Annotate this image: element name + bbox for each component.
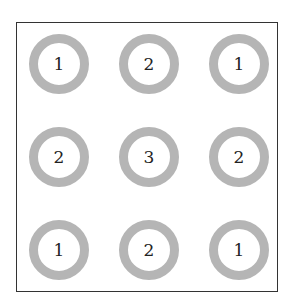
ring-r2c3: 2 <box>209 127 269 187</box>
ring-label: 1 <box>234 54 245 74</box>
ring-label: 2 <box>144 54 155 74</box>
ring-label: 2 <box>144 240 155 260</box>
ring-label: 1 <box>54 54 65 74</box>
ring-label: 3 <box>144 147 155 167</box>
ring-label: 2 <box>54 147 65 167</box>
ring-label: 1 <box>234 240 245 260</box>
ring-r2c1: 2 <box>29 127 89 187</box>
ring-r2c2: 3 <box>119 127 179 187</box>
ring-r3c2: 2 <box>119 220 179 280</box>
ring-label: 1 <box>54 240 65 260</box>
ring-r1c3: 1 <box>209 34 269 94</box>
ring-r1c1: 1 <box>29 34 89 94</box>
ring-r3c3: 1 <box>209 220 269 280</box>
ring-label: 2 <box>234 147 245 167</box>
ring-r1c2: 2 <box>119 34 179 94</box>
ring-r3c1: 1 <box>29 220 89 280</box>
